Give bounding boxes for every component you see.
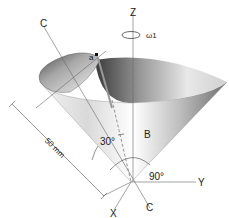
label-axis-y: Y [198,177,205,188]
angle-30-arc [92,146,98,160]
label-omega: ω1 [146,31,157,40]
cone-diagram: Z C ω1 a B 30° 90° Y X C 50 mm [0,0,229,218]
rotation-icon [122,32,140,39]
label-axis-x: X [110,208,117,218]
label-region-b: B [144,129,151,140]
label-angle-90: 90° [149,171,164,182]
label-axis-z: Z [130,7,136,18]
point-a-marker [95,53,98,56]
label-angle-30: 30° [100,136,115,147]
label-point-a: a [89,53,94,62]
label-dimension: 50 mm [43,136,67,160]
label-axis-c-bottom: C [146,202,153,213]
label-axis-c-top: C [40,18,47,29]
